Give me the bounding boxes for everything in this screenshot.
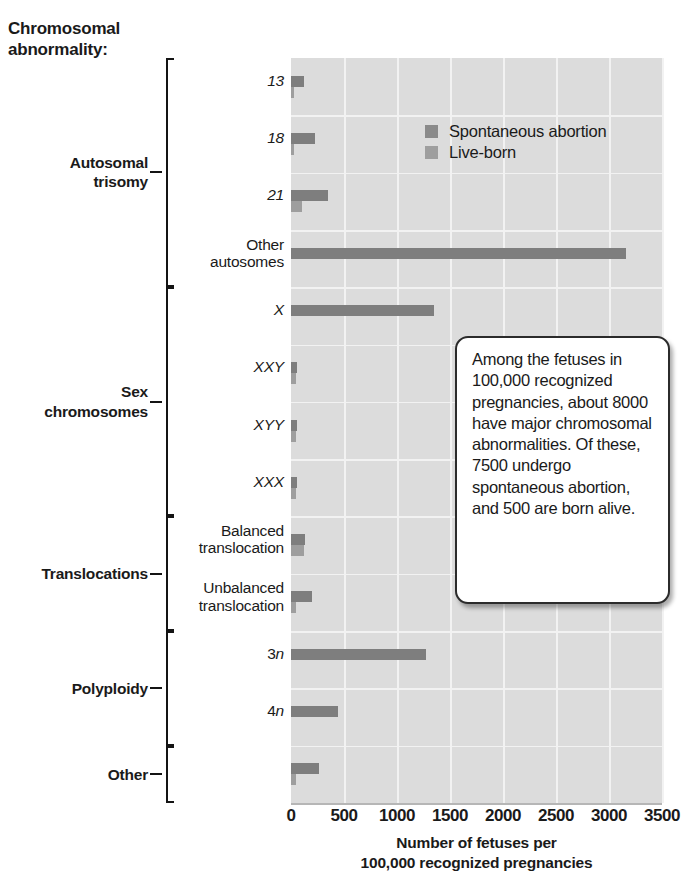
x-tick-label: 2500 bbox=[538, 806, 574, 826]
group-bracket bbox=[166, 58, 174, 287]
bar-spontaneous-abortion bbox=[291, 133, 315, 144]
bar-spontaneous-abortion bbox=[291, 763, 319, 774]
vertical-gridline bbox=[450, 58, 452, 803]
legend-swatch-icon bbox=[425, 146, 438, 159]
page-title: Chromosomal abnormality: bbox=[8, 18, 120, 61]
category-label: XXY bbox=[254, 359, 284, 376]
legend-swatch-icon bbox=[425, 125, 438, 138]
bar-live-born bbox=[291, 602, 296, 613]
group-leader-dash bbox=[150, 401, 162, 403]
vertical-gridline bbox=[397, 58, 399, 803]
category-label: 13 bbox=[267, 72, 284, 89]
bar-spontaneous-abortion bbox=[291, 76, 304, 87]
bar-spontaneous-abortion bbox=[291, 305, 434, 316]
x-tick-label: 1500 bbox=[432, 806, 468, 826]
bar-live-born bbox=[291, 373, 296, 384]
bar-spontaneous-abortion bbox=[291, 534, 305, 545]
x-tick-label: 2000 bbox=[485, 806, 521, 826]
horizontal-gridline bbox=[291, 688, 662, 690]
bar-live-born bbox=[291, 201, 302, 212]
legend-label: Spontaneous abortion bbox=[449, 122, 606, 141]
category-label: 21 bbox=[267, 187, 284, 204]
group-bracket bbox=[166, 287, 174, 516]
group-label: Other bbox=[108, 765, 148, 784]
horizontal-gridline bbox=[291, 631, 662, 633]
category-label: Other autosomes bbox=[210, 235, 284, 270]
bar-live-born bbox=[291, 774, 296, 785]
x-axis-line bbox=[291, 803, 662, 805]
bar-spontaneous-abortion bbox=[291, 477, 297, 488]
category-label: X bbox=[274, 301, 284, 318]
group-label: Translocations bbox=[41, 564, 148, 583]
bar-live-born bbox=[291, 545, 304, 556]
group-bracket bbox=[166, 631, 174, 746]
x-tick-label: 500 bbox=[330, 806, 357, 826]
category-label: Balanced translocation bbox=[199, 522, 284, 557]
horizontal-gridline bbox=[291, 746, 662, 748]
horizontal-gridline bbox=[291, 173, 662, 175]
bar-spontaneous-abortion bbox=[291, 248, 626, 259]
bar-spontaneous-abortion bbox=[291, 420, 297, 431]
bar-live-born bbox=[291, 87, 294, 98]
bar-spontaneous-abortion bbox=[291, 649, 426, 660]
category-label: 3n bbox=[267, 645, 284, 662]
vertical-gridline bbox=[344, 58, 346, 803]
callout-text: Among the fetuses in 100,000 recognized … bbox=[472, 349, 660, 519]
x-tick-label: 0 bbox=[286, 806, 295, 826]
x-tick-label: 1000 bbox=[379, 806, 415, 826]
group-label: Autosomal trisomy bbox=[70, 153, 148, 192]
legend-item-spontaneous-abortion[interactable]: Spontaneous abortion bbox=[425, 122, 606, 141]
category-label: Unbalanced translocation bbox=[199, 579, 284, 614]
category-label: 4n bbox=[267, 702, 284, 719]
horizontal-gridline bbox=[291, 287, 662, 289]
bar-live-born bbox=[291, 488, 296, 499]
horizontal-gridline bbox=[291, 230, 662, 232]
bar-spontaneous-abortion bbox=[291, 706, 338, 717]
category-label: 18 bbox=[267, 129, 284, 146]
group-label: Polyploidy bbox=[72, 679, 148, 698]
group-bracket bbox=[166, 746, 174, 803]
legend-label: Live-born bbox=[449, 143, 516, 162]
group-bracket-axis bbox=[160, 58, 174, 803]
category-label: XYY bbox=[254, 416, 284, 433]
horizontal-gridline bbox=[291, 115, 662, 117]
x-axis-title: Number of fetuses per 100,000 recognized… bbox=[291, 833, 662, 873]
bar-spontaneous-abortion bbox=[291, 591, 312, 602]
category-labels: 131821Other autosomesXXXYXYYXXXBalanced … bbox=[176, 58, 286, 803]
bar-live-born bbox=[291, 144, 294, 155]
group-leader-dash bbox=[150, 573, 162, 575]
group-leader-dash bbox=[150, 773, 162, 775]
legend: Spontaneous abortion Live-born bbox=[425, 122, 606, 164]
group-leader-dash bbox=[150, 687, 162, 689]
bar-spontaneous-abortion bbox=[291, 190, 328, 201]
callout-box: Among the fetuses in 100,000 recognized … bbox=[455, 336, 670, 604]
bar-spontaneous-abortion bbox=[291, 362, 297, 373]
category-label: XXX bbox=[254, 473, 284, 490]
legend-item-live-born[interactable]: Live-born bbox=[425, 143, 606, 162]
x-tick-label: 3000 bbox=[591, 806, 627, 826]
group-label: Sex chromosomes bbox=[44, 382, 148, 421]
group-leader-dash bbox=[150, 171, 162, 173]
group-bracket bbox=[166, 516, 174, 631]
bar-live-born bbox=[291, 431, 296, 442]
x-tick-label: 3500 bbox=[644, 806, 680, 826]
